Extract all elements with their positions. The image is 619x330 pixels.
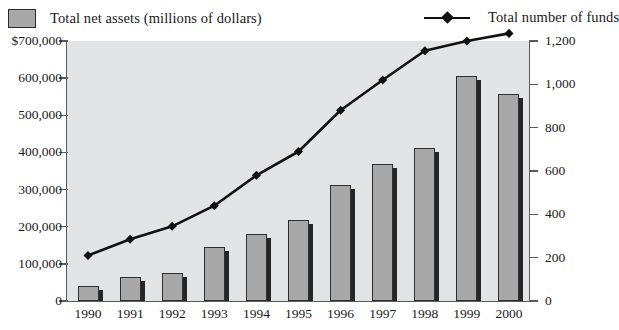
line-marker-1991: [126, 235, 135, 244]
line-series-path: [88, 33, 509, 255]
line-marker-2000: [504, 29, 513, 38]
line-marker-1992: [168, 222, 177, 231]
line-marker-1990: [83, 251, 92, 260]
line-marker-1999: [462, 36, 471, 45]
